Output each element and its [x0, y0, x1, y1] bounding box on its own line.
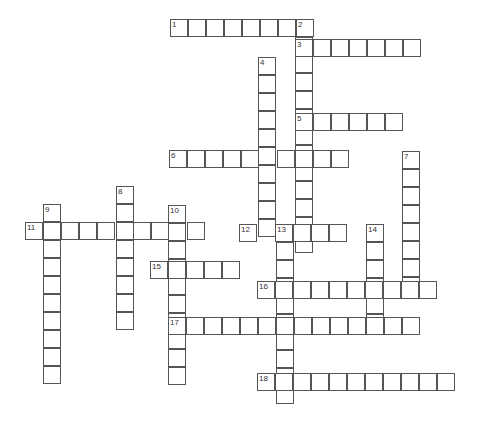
crossword-cell[interactable]: 16: [257, 281, 275, 299]
crossword-cell[interactable]: [385, 39, 403, 57]
crossword-cell[interactable]: [331, 113, 349, 131]
crossword-cell[interactable]: [168, 277, 186, 295]
crossword-cell[interactable]: [240, 317, 258, 335]
crossword-cell[interactable]: [186, 317, 204, 335]
crossword-cell[interactable]: [329, 224, 347, 242]
crossword-cell[interactable]: [349, 39, 367, 57]
crossword-cell[interactable]: [402, 317, 420, 335]
crossword-cell[interactable]: [43, 240, 61, 258]
crossword-cell[interactable]: [222, 261, 240, 279]
crossword-cell[interactable]: [43, 348, 61, 366]
crossword-cell[interactable]: [311, 373, 329, 391]
crossword-cell[interactable]: [419, 373, 437, 391]
crossword-cell[interactable]: 7: [402, 151, 420, 169]
crossword-cell[interactable]: [366, 260, 384, 278]
crossword-cell[interactable]: [168, 295, 186, 313]
crossword-cell[interactable]: [403, 39, 421, 57]
crossword-cell[interactable]: [313, 150, 331, 168]
crossword-cell[interactable]: 2: [296, 19, 314, 37]
crossword-cell[interactable]: [168, 367, 186, 385]
crossword-cell[interactable]: [366, 242, 384, 260]
crossword-cell[interactable]: [43, 294, 61, 312]
crossword-cell[interactable]: 14: [366, 224, 384, 242]
crossword-cell[interactable]: [295, 181, 313, 199]
crossword-cell[interactable]: 3: [295, 39, 313, 57]
crossword-cell[interactable]: [43, 312, 61, 330]
crossword-cell[interactable]: [186, 261, 204, 279]
crossword-cell[interactable]: [294, 317, 312, 335]
crossword-cell[interactable]: [293, 224, 311, 242]
crossword-cell[interactable]: [223, 150, 241, 168]
crossword-cell[interactable]: 18: [257, 373, 275, 391]
crossword-cell[interactable]: [258, 317, 276, 335]
crossword-cell[interactable]: [258, 183, 276, 201]
crossword-cell[interactable]: [258, 93, 276, 111]
crossword-cell[interactable]: 1: [170, 19, 188, 37]
crossword-cell[interactable]: [133, 222, 151, 240]
crossword-cell[interactable]: 11: [25, 222, 43, 240]
crossword-cell[interactable]: [116, 222, 134, 240]
crossword-cell[interactable]: 12: [239, 224, 257, 242]
crossword-cell[interactable]: 6: [169, 150, 187, 168]
crossword-cell[interactable]: [293, 281, 311, 299]
crossword-cell[interactable]: [116, 240, 134, 258]
crossword-cell[interactable]: [276, 350, 294, 368]
crossword-cell[interactable]: [367, 39, 385, 57]
crossword-cell[interactable]: [402, 169, 420, 187]
crossword-cell[interactable]: [383, 373, 401, 391]
crossword-cell[interactable]: [275, 373, 293, 391]
crossword-cell[interactable]: [206, 19, 224, 37]
crossword-cell[interactable]: [116, 312, 134, 330]
crossword-cell[interactable]: [402, 259, 420, 277]
crossword-cell[interactable]: [258, 219, 276, 237]
crossword-cell[interactable]: [312, 317, 330, 335]
crossword-cell[interactable]: [402, 205, 420, 223]
crossword-cell[interactable]: 9: [43, 204, 61, 222]
crossword-cell[interactable]: [365, 373, 383, 391]
crossword-cell[interactable]: [222, 317, 240, 335]
crossword-cell[interactable]: [258, 129, 276, 147]
crossword-cell[interactable]: [187, 150, 205, 168]
crossword-cell[interactable]: [348, 317, 366, 335]
crossword-cell[interactable]: [402, 187, 420, 205]
crossword-cell[interactable]: 13: [275, 224, 293, 242]
crossword-cell[interactable]: [187, 222, 205, 240]
crossword-cell[interactable]: [295, 91, 313, 109]
crossword-cell[interactable]: [295, 199, 313, 217]
crossword-cell[interactable]: [168, 261, 186, 279]
crossword-cell[interactable]: [258, 201, 276, 219]
crossword-cell[interactable]: [366, 317, 384, 335]
crossword-cell[interactable]: [43, 330, 61, 348]
crossword-cell[interactable]: [347, 281, 365, 299]
crossword-cell[interactable]: [242, 19, 260, 37]
crossword-cell[interactable]: [437, 373, 455, 391]
crossword-cell[interactable]: [79, 222, 97, 240]
crossword-cell[interactable]: [329, 281, 347, 299]
crossword-cell[interactable]: [168, 349, 186, 367]
crossword-cell[interactable]: 5: [295, 113, 313, 131]
crossword-cell[interactable]: [295, 55, 313, 73]
crossword-cell[interactable]: [151, 222, 169, 240]
crossword-cell[interactable]: [116, 276, 134, 294]
crossword-cell[interactable]: [224, 19, 242, 37]
crossword-cell[interactable]: [293, 373, 311, 391]
crossword-cell[interactable]: [278, 19, 296, 37]
crossword-cell[interactable]: [188, 19, 206, 37]
crossword-cell[interactable]: [275, 281, 293, 299]
crossword-cell[interactable]: [205, 150, 223, 168]
crossword-cell[interactable]: [330, 317, 348, 335]
crossword-cell[interactable]: [331, 150, 349, 168]
crossword-cell[interactable]: [43, 222, 61, 240]
crossword-cell[interactable]: [116, 294, 134, 312]
crossword-cell[interactable]: 15: [150, 261, 168, 279]
crossword-cell[interactable]: [276, 317, 294, 335]
crossword-cell[interactable]: [277, 150, 295, 168]
crossword-cell[interactable]: [313, 39, 331, 57]
crossword-cell[interactable]: [401, 373, 419, 391]
crossword-cell[interactable]: [97, 222, 115, 240]
crossword-cell[interactable]: [276, 242, 294, 260]
crossword-cell[interactable]: [43, 258, 61, 276]
crossword-cell[interactable]: [168, 223, 186, 241]
crossword-cell[interactable]: [295, 150, 313, 168]
crossword-cell[interactable]: [61, 222, 79, 240]
